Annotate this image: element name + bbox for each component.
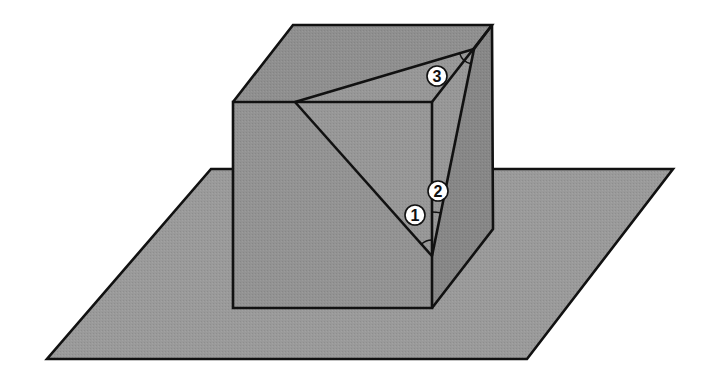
- svg-text:1: 1: [411, 207, 420, 224]
- cube: [233, 25, 493, 308]
- svg-text:2: 2: [434, 183, 443, 200]
- angle-label-2: 2: [428, 181, 448, 201]
- angle-label-3: 3: [427, 66, 447, 86]
- angle-label-1: 1: [405, 205, 425, 225]
- svg-text:3: 3: [433, 68, 442, 85]
- cube-on-plane-diagram: 1 2 3: [0, 0, 720, 385]
